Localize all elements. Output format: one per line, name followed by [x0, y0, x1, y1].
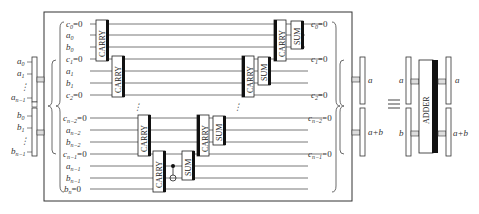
svg-text:CARRY: CARRY — [201, 125, 210, 152]
svg-text:cn−1=0: cn−1=0 — [63, 149, 87, 160]
svg-text:b1: b1 — [17, 122, 25, 133]
svg-text:SUM: SUM — [184, 159, 193, 176]
svg-text:CARRY: CARRY — [114, 66, 123, 93]
svg-text:b1: b1 — [66, 78, 74, 89]
carry-gate-n-1: CARRY — [153, 151, 166, 192]
svg-text:SUM: SUM — [260, 64, 269, 81]
svg-text:a: a — [368, 75, 373, 85]
svg-text:an−1: an−1 — [66, 161, 81, 172]
svg-text:c1=0: c1=0 — [311, 54, 328, 65]
svg-text:bn−1: bn−1 — [66, 173, 81, 184]
svg-text:a0: a0 — [66, 30, 74, 41]
svg-text:a: a — [399, 75, 404, 85]
svg-text:bn−1: bn−1 — [11, 146, 26, 157]
carry-inverse-gate-0: CARRY — [274, 20, 287, 61]
svg-text:bn=0: bn=0 — [64, 184, 82, 195]
svg-text:CARRY: CARRY — [140, 125, 149, 152]
output-braces — [332, 22, 344, 192]
svg-text:a0: a0 — [17, 56, 25, 67]
svg-text:SUM: SUM — [215, 124, 224, 141]
input-braces — [48, 22, 64, 192]
left-register-b: b0 b1 ⋮ bn−1 — [11, 102, 44, 157]
svg-text:cn−2=0: cn−2=0 — [63, 113, 87, 124]
adder-circuit-diagram: c0=0 a0 b0 c1=0 a1 b1 c2=0 cn−2=0 an−2 b… — [0, 0, 479, 214]
svg-text:b: b — [399, 128, 404, 138]
sum-gate-1: SUM — [258, 57, 271, 85]
svg-text:a: a — [455, 75, 460, 85]
sum-gate-0: SUM — [291, 21, 304, 49]
svg-text:cn−1=0: cn−1=0 — [308, 149, 332, 160]
circuit-frame — [44, 12, 352, 201]
left-register-a: a0 a1 ⋮ an−1 — [11, 56, 44, 103]
svg-text:an−2: an−2 — [66, 125, 81, 136]
svg-text:bn−2: bn−2 — [66, 137, 81, 148]
svg-text:an−1: an−1 — [11, 92, 26, 103]
sum-gate-n-2: SUM — [213, 116, 226, 145]
adder-block: a b ADDER a a+b — [399, 57, 469, 156]
right-register-a: a — [352, 57, 373, 104]
svg-text:CARRY: CARRY — [155, 161, 164, 188]
svg-text:ADDER: ADDER — [422, 96, 431, 124]
svg-text:SUM: SUM — [293, 28, 302, 45]
cnot-gate — [170, 164, 176, 181]
carry-gate-n-2: CARRY — [138, 115, 151, 156]
wires — [90, 24, 322, 189]
svg-text:c0=0: c0=0 — [311, 19, 328, 30]
svg-text:c2=0: c2=0 — [66, 90, 83, 101]
svg-text:CARRY: CARRY — [246, 66, 255, 93]
svg-text:a1: a1 — [17, 68, 25, 79]
svg-text:b0: b0 — [66, 42, 74, 53]
svg-text:c1=0: c1=0 — [66, 54, 83, 65]
svg-text:a+b: a+b — [368, 127, 384, 137]
register-b-labels: b0 b1 ⋮ bn−1 — [11, 110, 29, 157]
svg-text:a1: a1 — [66, 66, 74, 77]
equivalence-symbol — [388, 100, 400, 108]
svg-text:⋮: ⋮ — [233, 102, 242, 112]
svg-text:c0=0: c0=0 — [66, 19, 83, 30]
svg-text:⋮: ⋮ — [20, 136, 29, 146]
carry-gate-1: CARRY — [112, 56, 125, 97]
svg-text:b0: b0 — [17, 110, 25, 121]
carry-inverse-gate-1: CARRY — [242, 56, 255, 97]
svg-text:⋮: ⋮ — [20, 82, 29, 92]
svg-text:⋮: ⋮ — [133, 102, 142, 112]
sum-gate-n-1: SUM — [182, 151, 195, 180]
carry-inverse-gate-n-2: CARRY — [197, 115, 210, 156]
output-wire-labels: c0=0 c1=0 c2=0 cn−2=0 cn−1=0 — [308, 19, 332, 160]
right-register-sum: a+b — [352, 108, 384, 156]
ellipsis-dots: ⋮ ⋮ — [133, 102, 242, 112]
register-a-labels: a0 a1 ⋮ an−1 — [11, 56, 29, 103]
carry-gate-0: CARRY — [96, 20, 109, 61]
svg-text:c2=0: c2=0 — [311, 90, 328, 101]
svg-text:CARRY: CARRY — [278, 30, 287, 57]
svg-text:cn−2=0: cn−2=0 — [308, 113, 332, 124]
svg-text:CARRY: CARRY — [98, 30, 107, 57]
svg-text:a+b: a+b — [453, 128, 469, 138]
input-wire-labels: c0=0 a0 b0 c1=0 a1 b1 c2=0 cn−2=0 an−2 b… — [63, 19, 87, 195]
